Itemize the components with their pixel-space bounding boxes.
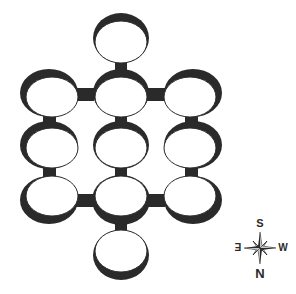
ring-bottom xyxy=(93,230,149,280)
ring-r3-right xyxy=(164,176,222,224)
compass-label-right: W xyxy=(277,242,289,253)
bridge-r1-left-center xyxy=(76,88,94,101)
compass-rose-icon xyxy=(244,232,276,264)
ring-r1-center xyxy=(93,69,149,117)
compass-label-top: S xyxy=(255,217,265,229)
ring-r1-left xyxy=(20,69,78,117)
ring-r2-right xyxy=(164,121,222,169)
ring-r2-left xyxy=(20,121,78,169)
bridge-r3-left-center xyxy=(76,194,94,207)
rings xyxy=(20,13,222,280)
ring-diagram xyxy=(0,0,296,294)
ring-r2-center xyxy=(93,121,149,169)
ring-r3-left xyxy=(20,176,78,224)
compass-label-bottom: N xyxy=(254,266,266,281)
ring-r1-right xyxy=(164,69,222,117)
bridge-r1-center-right xyxy=(147,88,165,101)
compass-label-left: E xyxy=(233,242,243,253)
ring-r3-center xyxy=(92,175,150,225)
ring-top xyxy=(93,13,149,63)
